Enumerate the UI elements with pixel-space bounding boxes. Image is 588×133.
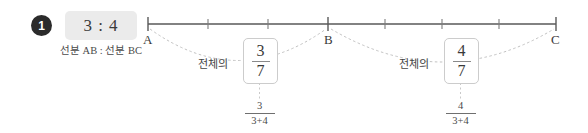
expression-bar-left — [245, 113, 275, 114]
number-line-diagram — [0, 0, 588, 133]
fraction-numerator-right: 4 — [458, 43, 466, 60]
expression-numerator-right: 4 — [458, 100, 463, 112]
expression-bar-right — [446, 113, 476, 114]
arc-bc — [331, 29, 554, 62]
fraction-denominator-left: 7 — [257, 63, 265, 80]
worksheet-figure: 1 3 : 4 선분 AB : 선분 BC A B C 전체의 3 7 — [0, 0, 588, 133]
expression-denominator-right: 3+4 — [452, 115, 468, 127]
expression-denominator-left: 3+4 — [251, 115, 267, 127]
whole-label-right: 전체의 — [399, 55, 429, 71]
whole-label-left: 전체의 — [198, 55, 228, 71]
point-label-a: A — [143, 32, 152, 48]
expression-left: 3 3+4 — [243, 100, 276, 126]
expression-numerator-left: 3 — [257, 100, 262, 112]
point-label-c: C — [551, 32, 560, 48]
expression-right: 4 3+4 — [444, 100, 477, 126]
fraction-box-right: 4 7 — [444, 38, 479, 84]
point-label-b: B — [324, 32, 333, 48]
fraction-denominator-right: 7 — [458, 63, 466, 80]
fraction-numerator-left: 3 — [257, 43, 265, 60]
arc-ab — [150, 29, 326, 61]
fraction-box-left: 3 7 — [243, 38, 278, 84]
